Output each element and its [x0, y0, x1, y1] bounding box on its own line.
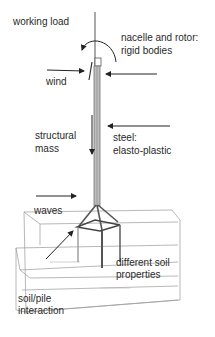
steel-label-line2: elasto-plastic: [113, 145, 171, 157]
working-load-label: working load: [13, 16, 69, 28]
nacelle: [95, 58, 101, 66]
nacelle-label-line1: nacelle and rotor:: [121, 32, 198, 44]
nacelle-label-line2: rigid bodies: [121, 45, 172, 57]
structural-mass-label-line2: mass: [35, 143, 59, 155]
steel-label-line1: steel:: [113, 132, 137, 144]
soil-pile-arrow-icon: [46, 231, 73, 259]
soil-properties-label-line1: different soil: [116, 257, 170, 269]
wind-arrow-left-icon: [47, 70, 84, 71]
waves-label: waves: [34, 205, 62, 217]
tripod-foundation: [77, 205, 120, 268]
structural-mass-label-line1: structural: [35, 130, 76, 142]
soil-pile-label-line1: soil/pile: [18, 293, 51, 305]
soil-properties-label-line2: properties: [116, 269, 160, 281]
soil-pile-label-line2: interaction: [18, 305, 64, 317]
wind-label: wind: [46, 76, 67, 88]
wind-turbine-diagram: [0, 0, 215, 337]
